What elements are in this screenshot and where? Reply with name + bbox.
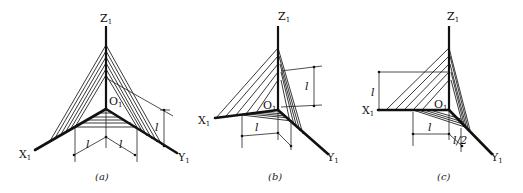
panel-a-caption: (a) — [95, 171, 109, 182]
panel-b-y-axis — [278, 110, 328, 154]
panel-c-x-label: X1 — [362, 104, 374, 118]
panel-a-dim-y-label: l — [119, 138, 123, 151]
panel-b-y-label: Y1 — [326, 151, 339, 165]
panel-b: Z1 O1 X1 Y1 l l (b) — [198, 10, 339, 182]
panel-b-x-label: X1 — [198, 114, 210, 128]
panel-a: Z1 O1 X1 Y1 l l l (a) — [19, 12, 190, 182]
axonometric-figure: Z1 O1 X1 Y1 l l l (a) — [0, 0, 523, 193]
panel-c-z-label: Z1 — [447, 10, 459, 24]
panel-a-dim-z-label: l — [155, 121, 159, 134]
panel-c-dim-y-label: l/2 — [453, 134, 467, 147]
panel-b-dim-x-label: l — [255, 121, 259, 134]
panel-b-z-label: Z1 — [278, 10, 290, 24]
panel-c-y-label: Y1 — [490, 151, 503, 165]
panel-c-dim-x-label: l — [428, 121, 432, 134]
panel-a-dim-x-label: l — [86, 138, 90, 151]
panel-c: Z1 O1 X1 Y1 l l l/2 (c) — [362, 10, 503, 182]
panel-c-dim-z-label: l — [371, 86, 375, 99]
panel-a-y-axis — [106, 109, 177, 153]
panel-b-o-label: O1 — [263, 99, 277, 113]
panel-a-z-label: Z1 — [100, 12, 112, 26]
panel-a-y-label: Y1 — [177, 151, 190, 165]
panel-a-o-label: O1 — [109, 95, 123, 109]
panel-a-x-label: X1 — [19, 148, 31, 162]
panel-a-x-axis — [35, 109, 106, 150]
panel-c-caption: (c) — [437, 171, 451, 182]
panel-c-o-label: O1 — [434, 98, 448, 112]
panel-b-dim-z-label: l — [305, 80, 309, 93]
panel-c-y-axis — [449, 110, 492, 154]
panel-c-hatch-right — [449, 48, 470, 130]
panel-b-caption: (b) — [268, 171, 282, 182]
